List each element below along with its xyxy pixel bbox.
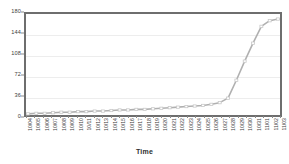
x-tick-label: 10/12 <box>96 118 101 131</box>
x-tick-label: 10/14 <box>113 118 118 131</box>
x-tick-mark <box>221 116 222 118</box>
data-point-marker <box>35 112 38 114</box>
x-tick-mark <box>119 116 120 118</box>
x-tick-label: 10/26 <box>214 118 219 131</box>
x-tick-label: 11/03 <box>282 118 287 131</box>
x-tick-mark <box>195 116 196 118</box>
x-tick-label: 10/31 <box>257 118 262 131</box>
x-axis: 10/0410/0510/0610/0710/0810/0910/1010/11… <box>24 118 282 148</box>
x-tick-mark <box>272 116 273 118</box>
x-tick-label: 10/17 <box>138 118 143 131</box>
data-point-marker <box>110 109 113 111</box>
x-tick-mark <box>178 116 179 118</box>
data-point-marker <box>218 102 221 104</box>
data-point-marker <box>77 110 80 112</box>
x-tick-mark <box>280 116 281 118</box>
x-tick-mark <box>212 116 213 118</box>
x-tick-label: 10/28 <box>231 118 236 131</box>
data-point-marker <box>260 25 263 27</box>
data-point-marker <box>160 107 163 109</box>
x-tick-mark <box>60 116 61 118</box>
x-tick-label: 10/08 <box>62 118 67 131</box>
x-tick-mark <box>111 116 112 118</box>
x-tick-mark <box>263 116 264 118</box>
data-point-marker <box>68 111 71 113</box>
data-point-marker <box>127 109 130 111</box>
x-tick-mark <box>145 116 146 118</box>
x-tick-label: 10/25 <box>206 118 211 131</box>
data-point-marker <box>143 108 146 110</box>
x-tick-mark <box>68 116 69 118</box>
x-tick-mark <box>153 116 154 118</box>
data-point-marker <box>252 42 255 44</box>
x-tick-mark <box>136 116 137 118</box>
x-tick-label: 10/24 <box>197 118 202 131</box>
x-tick-mark <box>161 116 162 118</box>
x-tick-mark <box>204 116 205 118</box>
x-tick-mark <box>238 116 239 118</box>
x-tick-label: 10/06 <box>45 118 50 131</box>
x-tick-label: 10/29 <box>240 118 245 131</box>
data-point-marker <box>243 60 246 62</box>
x-tick-mark <box>102 116 103 118</box>
data-point-marker <box>210 103 213 105</box>
x-tick-mark <box>43 116 44 118</box>
y-tick-label: 180 <box>11 9 21 15</box>
x-tick-label: 10/07 <box>53 118 58 131</box>
y-tick-label: 108 <box>11 51 21 57</box>
x-tick-label: 10/05 <box>36 118 41 131</box>
data-point-marker <box>93 110 96 112</box>
x-tick-label: 10/20 <box>163 118 168 131</box>
plot-area <box>24 12 282 117</box>
x-tick-label: 10/19 <box>155 118 160 131</box>
data-point-marker <box>185 105 188 107</box>
x-tick-label: 10/16 <box>130 118 135 131</box>
x-tick-label: 10/13 <box>104 118 109 131</box>
x-tick-mark <box>34 116 35 118</box>
x-tick-mark <box>187 116 188 118</box>
x-tick-label: 10/23 <box>189 118 194 131</box>
x-tick-mark <box>26 116 27 118</box>
data-point-marker <box>193 105 196 107</box>
data-point-marker <box>277 18 280 20</box>
x-tick-mark <box>128 116 129 118</box>
line-chart: 18014410872360 10/0410/0510/0610/0710/08… <box>0 0 289 164</box>
x-axis-title: Time <box>0 148 289 155</box>
y-axis: 18014410872360 <box>0 12 21 117</box>
data-point-marker <box>177 106 180 108</box>
data-point-marker <box>152 108 155 110</box>
series-polyline <box>28 19 278 114</box>
x-tick-label: 10/11 <box>87 118 92 131</box>
x-tick-mark <box>77 116 78 118</box>
x-tick-mark <box>170 116 171 118</box>
data-point-marker <box>118 109 121 111</box>
series-line <box>26 14 280 115</box>
data-point-marker <box>85 110 88 112</box>
x-tick-mark <box>229 116 230 118</box>
data-point-marker <box>268 20 271 22</box>
x-tick-label: 10/30 <box>248 118 253 131</box>
x-tick-mark <box>51 116 52 118</box>
x-tick-mark <box>246 116 247 118</box>
data-point-marker <box>202 104 205 106</box>
data-point-marker <box>43 112 46 114</box>
x-tick-label: 10/15 <box>121 118 126 131</box>
x-tick-label: 10/18 <box>147 118 152 131</box>
x-tick-mark <box>255 116 256 118</box>
data-point-marker <box>51 112 54 114</box>
data-point-marker <box>235 79 238 81</box>
x-tick-mark <box>94 116 95 118</box>
y-tick-label: 144 <box>11 30 21 36</box>
data-point-marker <box>60 111 63 113</box>
x-tick-label: 11/02 <box>274 118 279 131</box>
x-tick-mark <box>85 116 86 118</box>
data-point-marker <box>102 110 105 112</box>
data-point-marker <box>168 107 171 109</box>
x-tick-label: 10/22 <box>180 118 185 131</box>
x-tick-label: 10/27 <box>223 118 228 131</box>
data-point-marker <box>227 97 230 99</box>
x-tick-label: 10/10 <box>79 118 84 131</box>
x-tick-label: 10/04 <box>28 118 33 131</box>
x-tick-label: 11/01 <box>265 118 270 131</box>
x-tick-label: 10/21 <box>172 118 177 131</box>
